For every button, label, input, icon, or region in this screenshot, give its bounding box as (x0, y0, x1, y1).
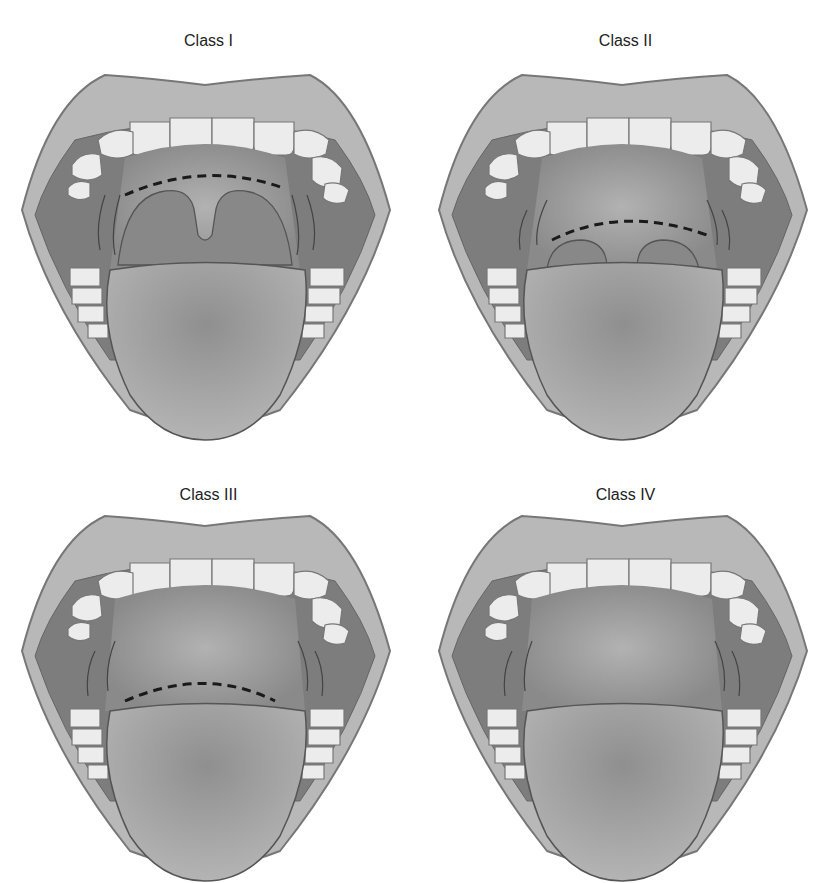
panel-class-2: Class II (417, 0, 834, 441)
panel-class-3: Class III (0, 441, 417, 882)
mouth-illustration-class-4 (417, 441, 834, 882)
panel-class-1: Class I (0, 0, 417, 441)
mouth-illustration-class-3 (0, 441, 417, 882)
mouth-illustration-class-2 (417, 0, 834, 441)
panel-class-4: Class IV (417, 441, 834, 882)
mouth-illustration-class-1 (0, 0, 417, 441)
